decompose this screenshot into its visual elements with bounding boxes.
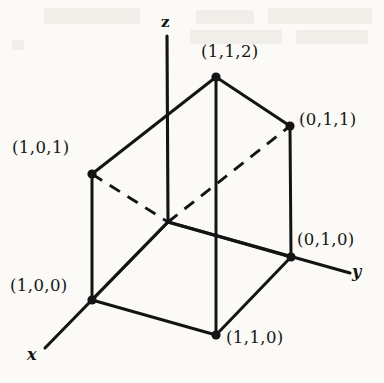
dashed-edges-group	[92, 126, 290, 222]
edge-base-front-right	[216, 257, 291, 335]
edge-base-back-left	[92, 222, 168, 300]
prism-drawing	[0, 0, 384, 383]
vertex-0-1-0-label: (0,1,0)	[297, 230, 355, 249]
figure-canvas: (1,1,2)(0,1,1)(1,0,1)(0,1,0)(1,0,0)(1,1,…	[0, 0, 384, 383]
vertex-1-0-0-dot	[87, 295, 96, 304]
edge-base-front-left	[92, 300, 216, 335]
vertex-0-1-1-dot	[285, 121, 294, 130]
hidden-edge-left	[92, 174, 168, 222]
edge-base-back-right	[168, 222, 291, 257]
axis-line-z	[167, 36, 168, 222]
axis-label-z: z	[161, 13, 170, 31]
vertex-0-1-1-label: (0,1,1)	[299, 110, 357, 129]
axis-label-y: y	[352, 262, 362, 281]
axis-label-x: x	[27, 345, 37, 364]
vertex-dots-group	[87, 72, 295, 339]
vertex-1-1-2-label: (1,1,2)	[201, 42, 259, 61]
vertex-1-0-1-label: (1,0,1)	[12, 138, 70, 157]
vertex-1-0-1-dot	[87, 169, 96, 178]
solid-edges-group	[92, 77, 291, 335]
edge-top-right	[216, 77, 290, 126]
vertex-1-0-0-label: (1,0,0)	[10, 276, 68, 295]
vertex-1-1-0-dot	[211, 330, 220, 339]
edge-right-vertical	[290, 126, 291, 257]
vertex-1-1-2-dot	[211, 72, 220, 81]
vertex-1-1-0-label: (1,1,0)	[226, 328, 284, 347]
hidden-edge-right	[168, 126, 290, 222]
vertex-0-1-0-dot	[286, 252, 295, 261]
edge-top-left	[92, 77, 216, 174]
